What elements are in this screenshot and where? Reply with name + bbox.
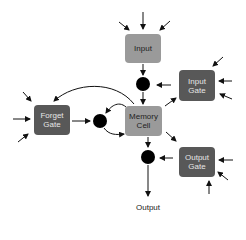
input-node-label: Input xyxy=(134,44,152,53)
input-arrow-right xyxy=(160,21,170,30)
input-node: Input xyxy=(125,34,161,63)
forget-gate-label-line1: Forget xyxy=(40,111,63,120)
input-arrow-left xyxy=(119,22,129,30)
forget-multiply-node xyxy=(93,114,107,128)
output-gate-node: Output Gate xyxy=(179,147,215,177)
memory-cell-label-line1: Memory xyxy=(129,112,158,121)
memory-cell-label-line2: Cell xyxy=(137,121,151,130)
input-multiply-node xyxy=(136,77,150,91)
output-gate-label-line1: Output xyxy=(185,153,209,162)
forget-gate-node: Forget Gate xyxy=(34,105,70,135)
memory-cell-node: Memory Cell xyxy=(125,106,162,136)
input-gate-node: Input Gate xyxy=(179,70,215,101)
input-gate-label-line2: Gate xyxy=(188,86,205,95)
output-label: Output xyxy=(136,203,160,212)
output-gate-label-line2: Gate xyxy=(188,162,205,171)
input-gate-label-line1: Input xyxy=(188,77,206,86)
output-multiply-node xyxy=(141,150,155,164)
forget-gate-label-line2: Gate xyxy=(43,120,60,129)
